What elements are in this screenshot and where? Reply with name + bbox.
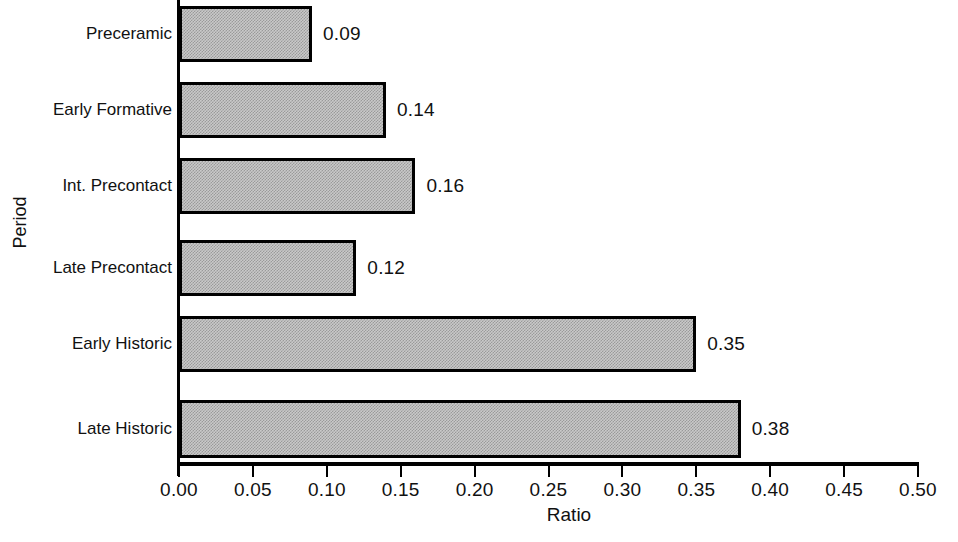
bar[interactable] [179,240,356,296]
bar-row: 0.12 [179,240,918,296]
x-axis-tick-label: 0.40 [735,479,805,501]
bar[interactable] [179,316,696,372]
bar-value-label: 0.35 [707,333,745,355]
bar-row: 0.14 [179,82,918,138]
bar-value-label: 0.12 [367,257,405,279]
x-axis-tick-label: 0.30 [587,479,657,501]
category-label: Late Historic [0,419,172,439]
x-axis-tick-label: 0.10 [292,479,362,501]
bar[interactable] [179,158,415,214]
plot-area: 0.090.140.160.120.350.38 [179,0,918,466]
category-label: Preceramic [0,24,172,44]
x-axis-tick [843,466,845,477]
x-axis-tick [326,466,328,477]
x-axis-tick [474,466,476,477]
x-axis-tick-label: 0.25 [514,479,584,501]
category-label: Early Formative [0,100,172,120]
bar-row: 0.35 [179,316,918,372]
x-axis-title: Ratio [0,504,958,526]
bar-row: 0.16 [179,158,918,214]
bar-chart: PreceramicEarly FormativeInt. Precontact… [0,0,958,542]
bar-row: 0.09 [179,6,918,62]
y-axis-title: Period [10,183,31,263]
x-axis-tick [548,466,550,477]
x-axis-tick [917,466,919,477]
x-axis-tick-label: 0.45 [809,479,879,501]
bar-row: 0.38 [179,400,918,458]
bar-value-label: 0.14 [397,99,435,121]
bar[interactable] [179,6,312,62]
x-axis-tick [400,466,402,477]
x-axis-tick-label: 0.05 [218,479,288,501]
x-axis-tick-label: 0.15 [366,479,436,501]
bar[interactable] [179,400,741,458]
x-axis-tick [178,466,180,477]
category-labels: PreceramicEarly FormativeInt. Precontact… [0,0,172,542]
bar-value-label: 0.38 [752,418,790,440]
x-axis-tick [695,466,697,477]
category-label: Early Historic [0,334,172,354]
x-axis-tick [621,466,623,477]
x-axis-tick [769,466,771,477]
bar[interactable] [179,82,386,138]
x-axis-tick [252,466,254,477]
bar-value-label: 0.09 [323,23,361,45]
x-axis-tick-label: 0.00 [144,479,214,501]
x-axis-tick-label: 0.35 [661,479,731,501]
bar-value-label: 0.16 [426,175,464,197]
x-axis-tick-label: 0.50 [883,479,953,501]
y-axis-line [177,0,180,476]
x-axis-tick-label: 0.20 [440,479,510,501]
